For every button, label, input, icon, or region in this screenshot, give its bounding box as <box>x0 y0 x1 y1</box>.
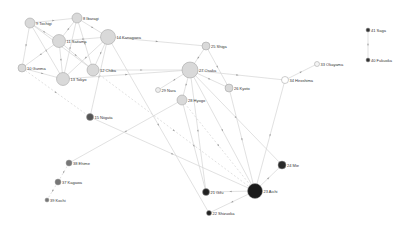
node-37[interactable]: 37 Kagawa <box>55 179 83 185</box>
node-circle[interactable] <box>45 198 49 202</box>
node-23[interactable]: 23 Aichi <box>248 184 278 199</box>
node-label: 27 Osaka <box>199 68 217 73</box>
node-circle[interactable] <box>72 13 82 23</box>
node-circle[interactable] <box>278 161 286 169</box>
node-12[interactable]: 12 Chiba <box>87 64 117 76</box>
arrow-icon <box>231 201 234 203</box>
node-circle[interactable] <box>101 30 116 45</box>
node-15[interactable]: 15 Niigata <box>87 114 114 121</box>
node-14[interactable]: 14 Kanagawa <box>101 30 142 45</box>
node-circle[interactable] <box>66 160 72 166</box>
node-circle[interactable] <box>366 28 370 32</box>
node-circle[interactable] <box>18 64 26 72</box>
node-label: 33 Okayama <box>321 62 344 67</box>
node-circle[interactable] <box>207 211 212 216</box>
node-label: 15 Niigata <box>95 115 114 120</box>
node-label: 13 Tokyo <box>71 77 88 82</box>
node-9[interactable]: 9 Tochigi <box>25 18 52 28</box>
arrow-icon <box>236 74 239 76</box>
node-22[interactable]: 22 Shizuoka <box>207 211 236 216</box>
node-label: 34 Hiroshima <box>290 78 314 83</box>
node-label: 25 Shiga <box>211 44 228 49</box>
node-label: 22 Shizuoka <box>213 211 236 216</box>
node-circle[interactable] <box>366 58 370 62</box>
network-graph: 9 Tochigi8 Ibaragi11 Saitama14 Kanagawa1… <box>0 0 408 230</box>
node-label: 12 Chiba <box>100 68 117 73</box>
arrow-icon <box>367 44 369 46</box>
node-25[interactable]: 25 Shiga <box>202 42 228 50</box>
node-label: 11 Saitama <box>67 39 88 44</box>
node-label: 24 Mie <box>287 163 300 168</box>
node-circle[interactable] <box>177 95 187 105</box>
arrow-icon <box>52 20 55 22</box>
node-10[interactable]: 10 Gunma <box>18 64 46 72</box>
node-circle[interactable] <box>87 114 94 121</box>
node-circle[interactable] <box>55 179 61 185</box>
node-8[interactable]: 8 Ibaragi <box>72 13 99 23</box>
node-27[interactable]: 27 Osaka <box>182 62 217 78</box>
arrow-icon <box>173 129 176 132</box>
node-label: 23 Aichi <box>264 189 278 194</box>
node-24[interactable]: 24 Mie <box>278 161 300 169</box>
node-circle[interactable] <box>282 77 289 84</box>
node-label: 29 Nara <box>162 88 177 93</box>
node-28[interactable]: 28 Hyogo <box>177 95 206 105</box>
node-21[interactable]: 21 Gifu <box>203 189 224 196</box>
node-circle[interactable] <box>156 88 161 93</box>
node-circle[interactable] <box>53 35 66 48</box>
node-circle[interactable] <box>225 84 233 92</box>
node-circle[interactable] <box>315 62 320 67</box>
node-label: 10 Gunma <box>27 66 46 71</box>
node-label: 41 Saga <box>371 28 387 33</box>
node-circle[interactable] <box>202 42 210 50</box>
node-13[interactable]: 13 Tokyo <box>57 73 88 86</box>
node-label: 37 Kagawa <box>62 180 83 185</box>
node-40[interactable]: 40 Fukuoka <box>366 58 393 63</box>
node-41[interactable]: 41 Saga <box>366 28 387 33</box>
node-33[interactable]: 33 Okayama <box>315 62 344 67</box>
node-circle[interactable] <box>182 62 198 78</box>
node-label: 8 Ibaragi <box>83 16 99 21</box>
arrow-icon <box>156 41 159 43</box>
node-label: 39 Kochi <box>50 198 66 203</box>
node-label: 14 Kanagawa <box>117 35 142 40</box>
node-label: 9 Tochigi <box>36 21 52 26</box>
arrow-icon <box>229 191 231 193</box>
arrow-icon <box>171 153 174 155</box>
node-34[interactable]: 34 Hiroshima <box>282 77 314 84</box>
node-circle[interactable] <box>203 189 210 196</box>
arrow-icon <box>140 69 142 71</box>
node-circle[interactable] <box>87 64 99 76</box>
arrow-icon <box>208 78 211 80</box>
node-label: 26 Kyoto <box>234 86 251 91</box>
node-26[interactable]: 26 Kyoto <box>225 84 251 92</box>
node-label: 21 Gifu <box>211 190 224 195</box>
node-38[interactable]: 38 Ehime <box>66 160 91 166</box>
node-label: 38 Ehime <box>73 161 91 166</box>
arrow-icon <box>60 59 62 62</box>
arrow-icon <box>99 52 101 55</box>
node-circle[interactable] <box>248 184 263 199</box>
node-39[interactable]: 39 Kochi <box>45 198 66 203</box>
node-label: 40 Fukuoka <box>371 58 393 63</box>
node-circle[interactable] <box>57 73 70 86</box>
node-29[interactable]: 29 Nara <box>156 88 177 93</box>
node-circle[interactable] <box>25 18 35 28</box>
node-label: 28 Hyogo <box>188 98 206 103</box>
arrow-icon <box>125 74 128 76</box>
node-11[interactable]: 11 Saitama <box>53 35 88 48</box>
